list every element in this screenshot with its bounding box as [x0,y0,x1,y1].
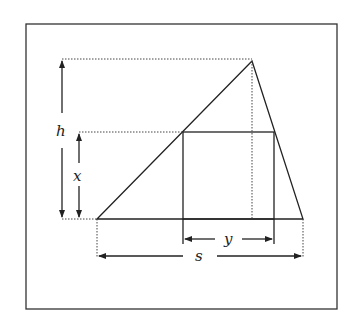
label-s: s [195,247,203,265]
label-h: h [56,122,66,140]
triangle [97,61,303,219]
label-x: x [73,167,82,185]
diagram-canvas: h x y s [0,0,351,329]
inscribed-square [183,132,274,219]
label-y: y [223,230,233,248]
